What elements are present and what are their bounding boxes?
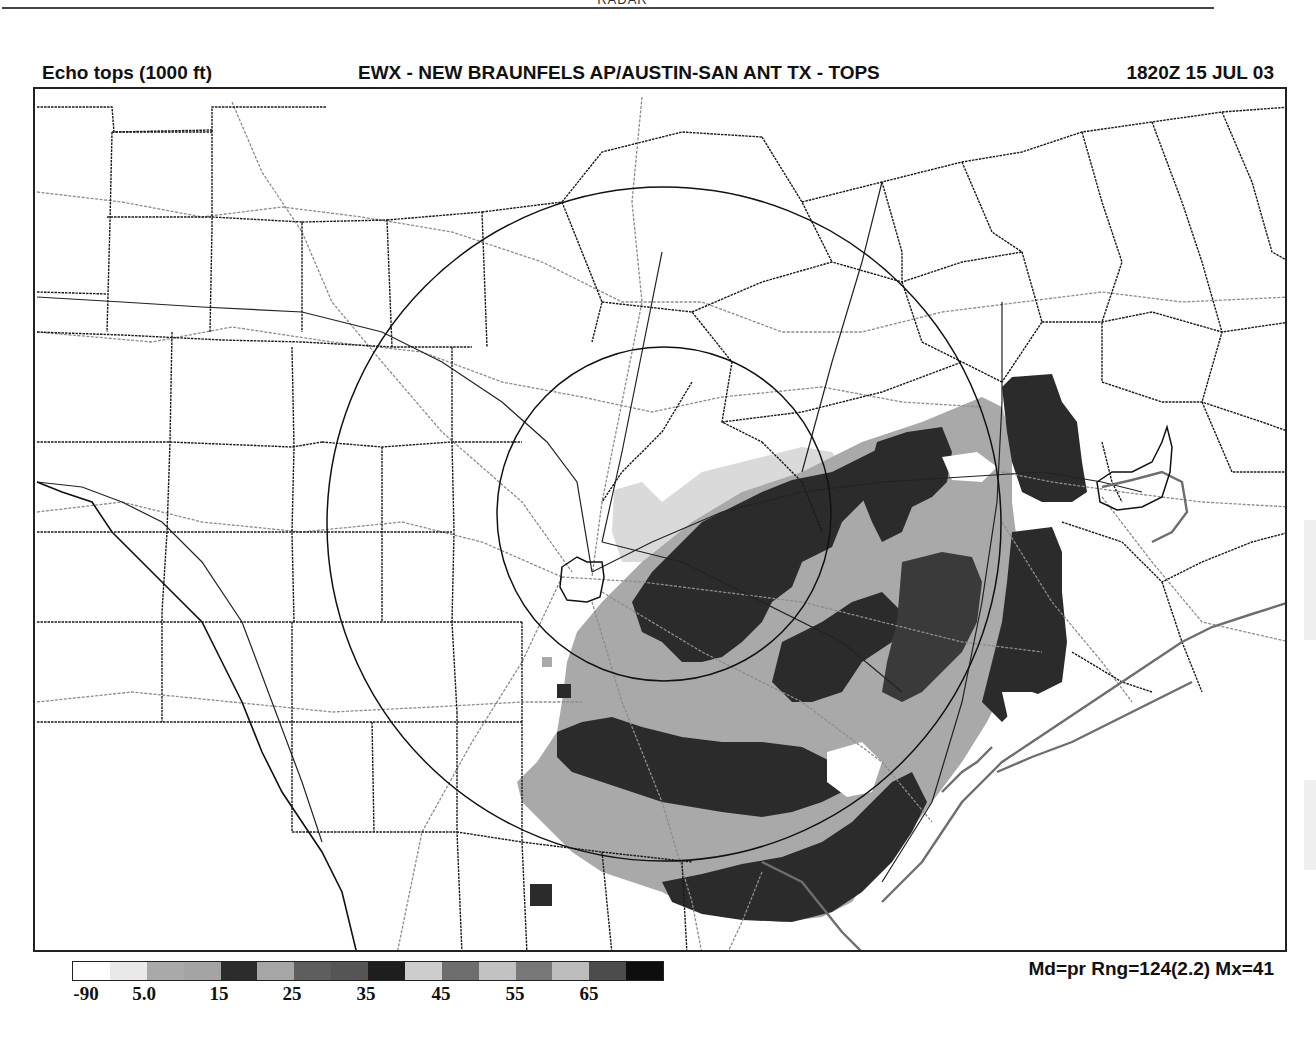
legend-label: 55: [506, 983, 525, 1005]
echo-gap-2: [1002, 692, 1072, 742]
legend-segment: [516, 962, 553, 980]
legend-segment: [73, 962, 110, 980]
legend-label: 35: [357, 983, 376, 1005]
legend-segment: [589, 962, 626, 980]
station-title: EWX - NEW BRAUNFELS AP/AUSTIN-SAN ANT TX…: [358, 62, 880, 84]
legend-label: 65: [580, 983, 599, 1005]
legend-segment: [221, 962, 258, 980]
echo-dark-isolated-2: [557, 684, 571, 698]
legend-segment: [110, 962, 147, 980]
datetime-label: 1820Z 15 JUL 03: [1126, 62, 1274, 84]
legend-segment: [294, 962, 331, 980]
echo-dark-isolated-1: [530, 884, 552, 906]
legend-segment: [257, 962, 294, 980]
legend-segment: [368, 962, 405, 980]
legend-segment: [405, 962, 442, 980]
legend-label: 45: [432, 983, 451, 1005]
echo-faint-isolated: [542, 657, 552, 667]
legend-segment: [552, 962, 589, 980]
legend-label: 15: [210, 983, 229, 1005]
product-title: Echo tops (1000 ft): [42, 62, 212, 84]
product-stats: Md=pr Rng=124(2.2) Mx=41: [1028, 958, 1274, 980]
rio-grande-boundary: [37, 482, 357, 952]
legend-segment: [184, 962, 221, 980]
scan-edge-artifact: [1304, 780, 1316, 870]
legend-segment: [331, 962, 368, 980]
legend-label: -90: [73, 983, 98, 1005]
top-caption: RADAR: [0, 0, 1245, 7]
legend-segment: [626, 962, 663, 980]
legend-label: 5.0: [132, 983, 156, 1005]
top-divider: [2, 7, 1214, 9]
houston-outline: [1097, 427, 1172, 510]
echo-dark-cluster-3: [1002, 374, 1087, 502]
legend-segment: [147, 962, 184, 980]
san-antonio-outline: [560, 557, 604, 602]
legend-segment: [479, 962, 516, 980]
radar-map[interactable]: [33, 87, 1287, 952]
legend-segment: [442, 962, 479, 980]
echo-layer: [517, 374, 1087, 922]
echo-tops-legend: [72, 961, 664, 981]
scan-edge-artifact: [1304, 520, 1316, 640]
radar-map-canvas: [33, 87, 1287, 952]
legend-label: 25: [283, 983, 302, 1005]
